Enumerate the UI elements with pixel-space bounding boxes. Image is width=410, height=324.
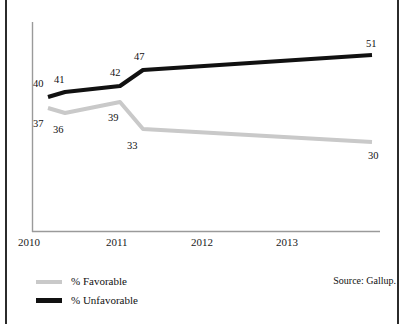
data-label-unfavorable-2: 42 [110, 67, 121, 78]
data-label-favorable-2: 39 [108, 112, 119, 123]
legend-label-favorable: % Favorable [71, 275, 127, 288]
data-label-unfavorable-3: 47 [134, 51, 145, 62]
data-label-favorable-3: 33 [127, 140, 138, 151]
data-label-favorable-4: 30 [368, 150, 379, 161]
series-line-favorable [48, 102, 372, 142]
x-tick-label-2013: 2013 [276, 236, 298, 248]
legend-label-unfavorable: % Unfavorable [71, 294, 138, 307]
x-tick-label-2010: 2010 [18, 236, 40, 248]
line-chart: 40 41 42 47 51 37 36 39 33 30 2010 2011 … [0, 0, 410, 250]
x-tick-label-2012: 2012 [191, 236, 213, 248]
data-label-favorable-0: 37 [33, 118, 44, 129]
data-label-favorable-1: 36 [53, 124, 64, 135]
data-label-unfavorable-0: 40 [33, 78, 44, 89]
legend-swatch-unfavorable-icon [36, 298, 62, 303]
data-label-unfavorable-1: 41 [54, 74, 65, 85]
legend-swatch-favorable-icon [36, 280, 62, 284]
legend-item-favorable: % Favorable [36, 272, 336, 291]
series-line-unfavorable [48, 55, 372, 97]
source-attribution: Source: Gallup. [333, 275, 396, 287]
chart-legend: % Favorable % Unfavorable [36, 272, 336, 310]
data-label-unfavorable-4: 51 [366, 38, 377, 49]
x-tick-label-2011: 2011 [106, 236, 128, 248]
legend-item-unfavorable: % Unfavorable [36, 291, 336, 310]
